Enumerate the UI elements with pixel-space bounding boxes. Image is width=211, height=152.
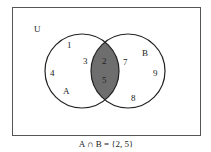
venn-diagram: U 1 3 4 A 2 5 7 B 9 8 A ∩ B = {2, 5} — [0, 0, 211, 152]
set-a-element: 4 — [50, 68, 55, 78]
set-a-label: A — [63, 86, 70, 96]
intersection-element: 2 — [102, 56, 107, 66]
set-b-element: 9 — [153, 68, 158, 78]
intersection-element: 5 — [102, 75, 107, 85]
set-b-element: 7 — [123, 57, 128, 67]
set-b-element: 8 — [131, 93, 136, 103]
universe-label: U — [34, 24, 41, 34]
set-b-label: B — [142, 48, 148, 58]
caption: A ∩ B = {2, 5} — [79, 139, 134, 149]
set-a-element: 3 — [83, 56, 88, 66]
set-a-element: 1 — [67, 40, 72, 50]
